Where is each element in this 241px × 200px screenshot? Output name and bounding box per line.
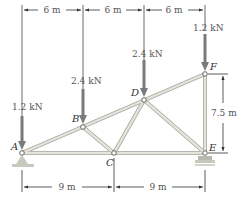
node-B [81,125,86,130]
load-label-B: 2.4 kN [71,76,102,86]
node-D [142,98,147,103]
dim-bottom-2: 9 m [149,182,167,192]
node-F [203,72,208,77]
load-label-D: 2.4 kN [132,49,163,59]
truss-diagram: 6 m 6 m 6 m [0,0,241,200]
dim-bottom-1: 9 m [58,182,76,192]
roller-support-E [195,156,215,166]
top-dimension-lines [22,5,205,145]
label-F: F [209,61,218,72]
load-label-A: 1.2 kN [12,102,43,112]
load-label-F: 1.2 kN [193,23,224,33]
label-E: E [208,142,217,153]
height-dimension-label: 7.5 m [211,108,237,118]
label-C: C [106,157,114,168]
label-D: D [130,87,139,98]
label-A: A [10,141,18,152]
node-E [203,151,208,156]
pin-support-A [12,155,34,167]
dim-top-3: 6 m [165,5,183,15]
dim-top-1: 6 m [43,5,61,15]
label-B: B [71,113,79,124]
truss-members [22,74,205,153]
node-C [112,151,117,156]
dim-top-2: 6 m [104,5,122,15]
node-A [20,151,25,156]
